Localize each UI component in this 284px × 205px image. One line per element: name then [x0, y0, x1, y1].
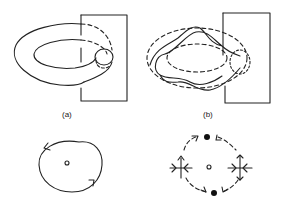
panel-a-torus-outer: [14, 24, 84, 86]
panel-a-label: (a): [62, 110, 72, 119]
panel-b-label: (b): [203, 110, 213, 119]
panel-b-center-point: [207, 165, 211, 169]
figure-canvas: [0, 0, 284, 205]
panel-b-section-view: [170, 135, 252, 192]
saddle-point-left: [170, 156, 192, 178]
panel-b-node-bottom: [211, 190, 217, 196]
panel-a-torus: [14, 15, 127, 101]
panel-a-torus-inner: [34, 40, 96, 69]
arrow-icon: [222, 187, 228, 192]
panel-a-invariant-circle: [39, 141, 102, 192]
panel-a-section-plane: [81, 15, 127, 101]
panel-b-node-top: [204, 134, 210, 140]
panel-a-fixed-point: [65, 161, 69, 165]
saddle-point-right: [228, 155, 252, 180]
panel-a-section-view: [39, 141, 102, 192]
panel-a-tube-section: [95, 49, 113, 65]
panel-b-torus: [147, 13, 270, 103]
